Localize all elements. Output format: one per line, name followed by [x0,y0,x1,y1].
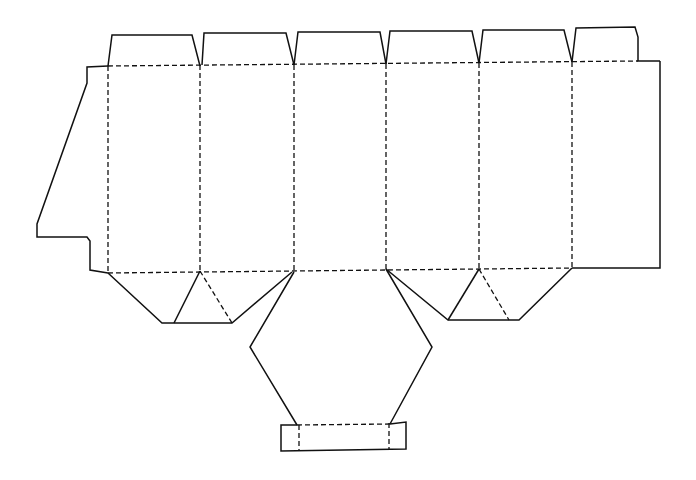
top-tab-2 [202,33,294,65]
bottom-flap-left-fold [200,271,232,323]
base-flap-left-edge [250,272,297,425]
base-tongue [281,422,406,451]
glue-flap [37,66,108,273]
base-flap-right-edge [386,269,432,424]
top-tab-4 [386,31,479,64]
bottom-flap-left [108,272,292,323]
top-tab-6 [572,27,660,62]
bottom-flap-left-cut [174,271,200,323]
base-tongue-fold [297,424,390,425]
right-edge [572,61,660,268]
bottom-flap-right-cut [448,269,479,320]
bottom-flap-right-fold [479,269,509,320]
bottom-fold-line [108,268,572,273]
box-dieline [0,0,696,480]
top-tab-3 [294,32,386,65]
top-fold-line [108,61,638,66]
bottom-flap-right [386,268,572,320]
top-tab-5 [479,30,572,63]
top-tab-1 [108,35,200,66]
